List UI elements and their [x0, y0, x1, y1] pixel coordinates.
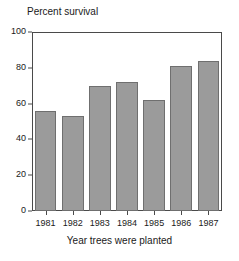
x-axis-tick-mark	[46, 211, 47, 215]
x-axis-title: Year trees were planted	[0, 235, 239, 247]
y-axis-tick-label: 0	[21, 205, 26, 216]
x-axis-tick-label: 1983	[86, 218, 113, 229]
x-axis-tick-label: 1987	[195, 218, 222, 229]
x-axis-tick-mark	[181, 211, 182, 215]
bar	[62, 116, 84, 211]
bar	[170, 66, 192, 211]
x-axis-tick-mark	[100, 211, 101, 215]
y-axis-tick-label: 20	[16, 169, 26, 180]
y-axis-tick-label: 80	[16, 61, 26, 72]
y-axis-tick-mark	[28, 103, 32, 104]
bar	[116, 82, 138, 211]
x-axis-tick-label: 1981	[32, 218, 59, 229]
x-axis-tick-label: 1982	[59, 218, 86, 229]
x-axis-tick-label: 1986	[168, 218, 195, 229]
x-axis-tick-mark	[73, 211, 74, 215]
x-axis-tick-label: 1985	[141, 218, 168, 229]
y-axis-tick-label: 40	[16, 133, 26, 144]
y-axis-tick-mark	[28, 139, 32, 140]
y-axis-tick-mark	[28, 32, 32, 33]
y-axis-title: Percent survival	[27, 6, 98, 18]
x-axis-tick-mark	[127, 211, 128, 215]
bar	[143, 100, 165, 211]
y-axis-tick-mark	[28, 67, 32, 68]
bar	[89, 86, 111, 211]
x-axis-tick-mark	[154, 211, 155, 215]
bar-chart-figure: Percent survival 020406080100 1981198219…	[0, 0, 239, 261]
y-axis-tick-mark	[28, 211, 32, 212]
y-axis-tick-label: 100	[11, 26, 26, 37]
bar	[198, 61, 220, 211]
y-axis-tick-label: 60	[16, 97, 26, 108]
x-axis-tick-label: 1984	[113, 218, 140, 229]
x-axis-tick-mark	[208, 211, 209, 215]
y-axis-tick-mark	[28, 175, 32, 176]
bar	[35, 111, 57, 211]
